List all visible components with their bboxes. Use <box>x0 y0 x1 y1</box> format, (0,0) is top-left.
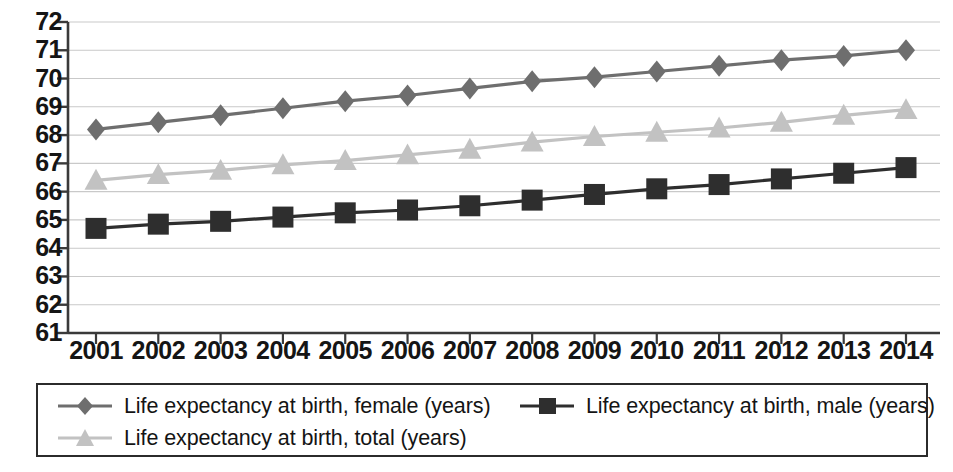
data-point-marker <box>86 218 107 239</box>
data-point-marker <box>397 200 418 221</box>
life-expectancy-line-chart: 727170696867666564636261 200120022003200… <box>0 0 953 472</box>
data-point-marker <box>585 66 603 88</box>
legend-label-male: Life expectancy at birth, male (years) <box>586 394 935 419</box>
plot-svg <box>0 0 953 372</box>
data-point-marker <box>335 202 356 223</box>
data-point-marker <box>461 77 479 99</box>
y-tick-label: 70 <box>18 66 62 91</box>
data-point-marker <box>897 39 915 61</box>
axis-lines <box>57 22 940 344</box>
data-point-marker <box>646 178 667 199</box>
x-axis-tick-labels: 2001200220032004200520062007200820092010… <box>0 330 953 370</box>
y-tick-label: 64 <box>18 235 62 260</box>
chart-legend: Life expectancy at birth, female (years)… <box>36 383 928 457</box>
data-point-marker <box>87 118 105 140</box>
y-tick-label: 65 <box>18 207 62 232</box>
y-tick-label: 66 <box>18 179 62 204</box>
data-point-marker <box>772 49 790 71</box>
data-point-marker <box>149 111 167 133</box>
x-tick-label: 2014 <box>866 338 946 363</box>
data-point-marker <box>833 163 854 184</box>
data-point-marker <box>272 207 293 228</box>
data-point-marker <box>459 195 480 216</box>
legend-item-male[interactable]: Life expectancy at birth, male (years) <box>518 391 935 421</box>
data-point-marker <box>336 90 354 112</box>
y-tick-label: 69 <box>18 94 62 119</box>
data-point-marker <box>835 45 853 67</box>
data-point-marker <box>523 70 541 92</box>
legend-swatch-triangle-icon <box>56 426 114 450</box>
data-point-marker <box>709 174 730 195</box>
data-point-marker <box>771 168 792 189</box>
data-point-marker <box>895 98 918 119</box>
legend-label-female: Life expectancy at birth, female (years) <box>124 394 490 419</box>
y-tick-label: 68 <box>18 122 62 147</box>
y-tick-label: 63 <box>18 263 62 288</box>
legend-swatch-diamond-icon <box>56 394 114 418</box>
data-point-marker <box>648 60 666 82</box>
data-point-marker <box>710 55 728 77</box>
data-point-marker <box>148 214 169 235</box>
y-tick-label: 72 <box>18 9 62 34</box>
legend-label-total: Life expectancy at birth, total (years) <box>124 426 467 451</box>
series-total <box>85 98 918 190</box>
data-point-marker <box>212 104 230 126</box>
y-tick-label: 71 <box>18 37 62 62</box>
data-point-marker <box>896 157 917 178</box>
y-tick-label: 62 <box>18 292 62 317</box>
plot-area <box>0 0 953 372</box>
legend-item-total[interactable]: Life expectancy at birth, total (years) <box>56 423 467 453</box>
series-male <box>86 157 917 239</box>
legend-item-female[interactable]: Life expectancy at birth, female (years) <box>56 391 490 421</box>
data-point-marker <box>274 97 292 119</box>
data-point-marker <box>210 211 231 232</box>
y-axis-tick-labels: 727170696867666564636261 <box>16 0 62 372</box>
data-point-marker <box>522 190 543 211</box>
series-female <box>87 39 915 140</box>
data-point-marker <box>584 184 605 205</box>
data-point-marker <box>399 85 417 107</box>
legend-swatch-square-icon <box>518 394 576 418</box>
y-tick-label: 67 <box>18 150 62 175</box>
